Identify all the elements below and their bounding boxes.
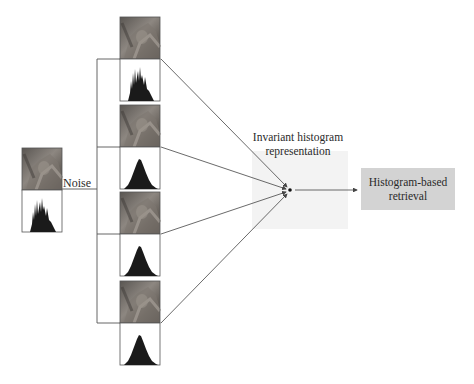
variant-2 [120, 105, 160, 189]
noise-label: Noise [63, 176, 91, 190]
representation-node [288, 188, 292, 192]
input-image [22, 148, 62, 190]
noise-bracket [62, 59, 120, 323]
input-histogram [22, 190, 62, 232]
variant-4 [120, 281, 160, 365]
retrieval-box: Histogram-based retrieval [361, 168, 455, 210]
representation-label-line1: Invariant histogram [238, 130, 358, 144]
variant-1 [120, 17, 160, 101]
representation-label-line2: representation [238, 144, 358, 158]
variant-3 [120, 192, 160, 276]
retrieval-label-line1: Histogram-based [369, 175, 448, 189]
representation-label: Invariant histogram representation [238, 130, 358, 158]
retrieval-label-line2: retrieval [369, 189, 448, 203]
